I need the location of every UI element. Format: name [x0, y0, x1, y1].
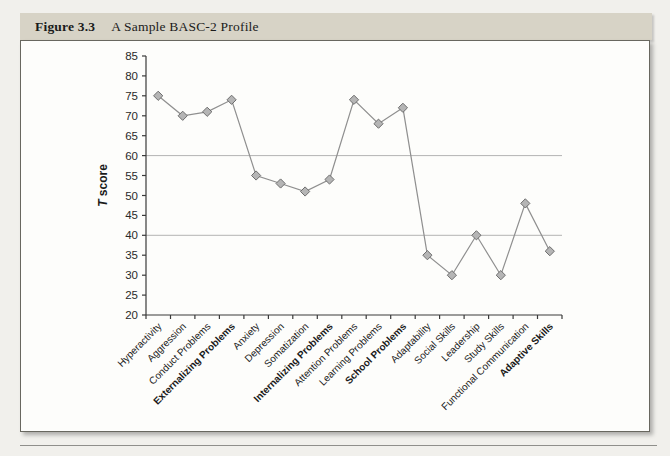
y-tick-label: 40: [125, 229, 138, 241]
y-tick-label: 35: [125, 249, 138, 261]
data-point-marker: [276, 179, 285, 188]
basc2-profile-chart: 2025303540455055606570758085Hyperactivit…: [21, 41, 649, 431]
data-point-marker: [472, 231, 481, 240]
data-point-marker: [203, 107, 212, 116]
data-point-marker: [301, 187, 310, 196]
figure-header: Figure 3.3 A Sample BASC-2 Profile: [20, 13, 652, 40]
data-point-marker: [252, 171, 261, 180]
data-point-marker: [545, 247, 554, 256]
y-tick-label: 50: [125, 190, 138, 202]
data-point-marker: [496, 271, 505, 280]
data-point-marker: [398, 103, 407, 112]
y-tick-label: 75: [125, 90, 138, 102]
data-point-marker: [227, 95, 236, 104]
y-tick-label: 45: [125, 209, 138, 221]
data-point-marker: [521, 199, 530, 208]
y-axis-title: T score: [96, 164, 110, 207]
y-tick-label: 60: [125, 150, 138, 162]
y-tick-label: 20: [125, 309, 138, 321]
figure-title: A Sample BASC-2 Profile: [111, 19, 258, 35]
y-tick-label: 85: [125, 50, 138, 62]
y-tick-label: 55: [125, 170, 138, 182]
chart-box: 2025303540455055606570758085Hyperactivit…: [20, 40, 650, 432]
bottom-rule: [20, 445, 657, 446]
profile-line: [158, 96, 550, 275]
y-tick-label: 25: [125, 289, 138, 301]
figure-label: Figure 3.3: [35, 19, 95, 35]
y-tick-label: 30: [125, 269, 138, 281]
y-tick-label: 65: [125, 130, 138, 142]
y-tick-label: 70: [125, 110, 138, 122]
y-tick-label: 80: [125, 70, 138, 82]
data-point-marker: [325, 175, 334, 184]
